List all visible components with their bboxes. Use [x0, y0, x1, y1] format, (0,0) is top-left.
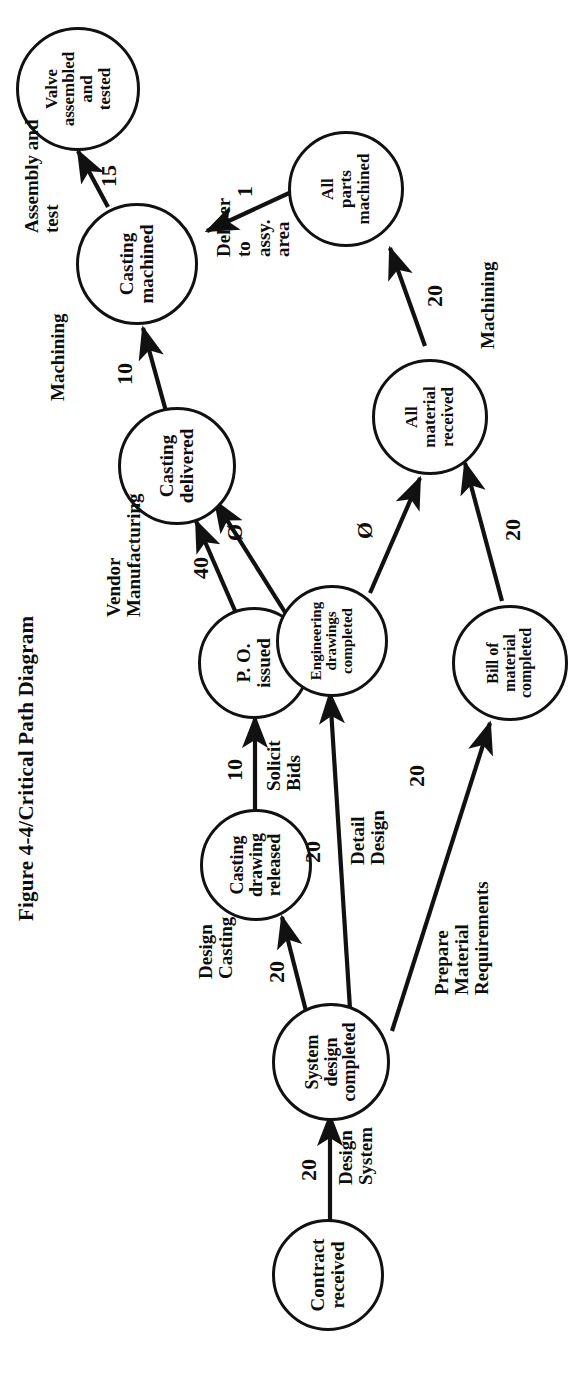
node-contract-received[interactable]: Contract received — [272, 1219, 384, 1331]
edge-caption-vendor-manufacturing: Vendor Manufacturing — [104, 494, 144, 618]
edge-caption-solicit-bids: Solicit Bids — [264, 740, 304, 791]
edge-label-eng-dwg-to-all-material-duration: Ø — [352, 522, 378, 539]
edge-caption-prepare-material-requirements: Prepare Material Requirements — [432, 881, 491, 995]
edge-caption-machining-parts: Machining — [478, 261, 498, 349]
node-all-material-received-label: All material received — [403, 384, 456, 449]
edge-label-machining-casting-duration: 10 — [112, 363, 138, 385]
edge-label-vendor-manufacturing-duration: 40 — [188, 557, 214, 579]
edge-caption-machining-casting: Machining — [48, 313, 68, 401]
edge-caption-design-casting: Design Casting — [196, 917, 236, 979]
edge-label-detail-design-duration: 20 — [300, 841, 326, 863]
node-casting-machined-label: Casting machined — [117, 222, 157, 305]
node-contract-received-label: Contract received — [308, 1237, 348, 1314]
edge-eng-dwg-to-casting-delivered — [215, 501, 288, 617]
node-system-design-completed-label: System design completed — [303, 1021, 359, 1104]
edge-caption-assembly-and-test: Assembly and test — [22, 120, 62, 234]
node-casting-delivered-label: Casting delivered — [157, 427, 197, 506]
edge-label-design-system-duration: 20 — [296, 1159, 322, 1181]
edge-label-eng-dwg-to-casting-delivered-duration: Ø — [222, 524, 248, 541]
edge-machining-casting — [143, 328, 167, 415]
node-all-parts-machined-label: All parts machined — [319, 152, 372, 227]
node-bill-of-material-completed-label: Bill of material completed — [485, 626, 535, 700]
edge-caption-deliver-to-assy-area: Deliver to assy. area — [214, 198, 293, 257]
node-casting-drawing-released[interactable]: Casting drawing released — [200, 809, 312, 921]
edge-bom-to-all-material — [465, 463, 502, 601]
edge-label-assembly-and-test-duration: 15 — [96, 165, 122, 187]
edge-caption-detail-design: Detail Design — [348, 810, 388, 865]
figure-page: Figure 4-4/Critical Path Diagram — [0, 0, 583, 1383]
edge-machining-parts — [390, 248, 425, 346]
edge-label-deliver-to-assy-area-duration: 1 — [232, 186, 258, 197]
node-all-material-received[interactable]: All material received — [372, 359, 488, 475]
rotated-figure-canvas: Figure 4-4/Critical Path Diagram — [0, 0, 583, 1383]
edge-label-solicit-bids-duration: 10 — [222, 759, 248, 781]
node-all-parts-machined[interactable]: All parts machined — [288, 131, 404, 247]
edge-label-design-casting-duration: 20 — [264, 961, 290, 983]
node-bill-of-material-completed[interactable]: Bill of material completed — [452, 605, 568, 721]
node-engineering-drawings-completed[interactable]: Engineering drawings completed — [276, 585, 388, 697]
node-engineering-drawings-completed-label: Engineering drawings completed — [309, 600, 356, 682]
edge-caption-design-system: Design System — [336, 1127, 376, 1185]
edge-label-machining-parts-duration: 20 — [422, 285, 448, 307]
edge-label-bom-to-all-material-duration: 20 — [500, 519, 526, 541]
node-po-issued-label: P. O. issued — [234, 636, 274, 690]
node-casting-machined[interactable]: Casting machined — [76, 203, 198, 325]
node-valve-assembled-and-tested-label: Valve assembled and tested — [43, 50, 114, 129]
node-casting-drawing-released-label: Casting drawing released — [228, 831, 284, 899]
diagram-canvas: Figure 4-4/Critical Path Diagram — [0, 0, 583, 1383]
edge-label-prepare-material-requirements-duration: 20 — [404, 765, 430, 787]
node-system-design-completed[interactable]: System design completed — [272, 1003, 390, 1121]
